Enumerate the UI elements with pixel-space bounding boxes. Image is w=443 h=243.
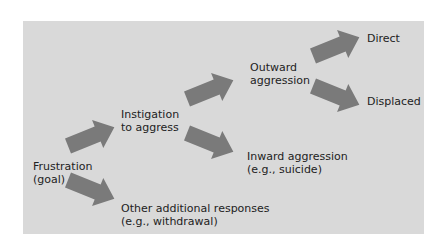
node-outward-aggression: Outward aggression <box>250 61 310 87</box>
arrow-frustration-to-instigation <box>62 113 120 160</box>
arrow-instigation-to-outward <box>181 66 239 113</box>
node-displaced: Displaced <box>367 95 421 108</box>
arrow-outward-to-direct <box>307 23 365 70</box>
node-frustration: Frustration (goal) <box>33 160 92 186</box>
node-other-responses: Other additional responses (e.g., withdr… <box>121 202 270 228</box>
node-inward-aggression: Inward aggression (e.g., suicide) <box>247 150 348 176</box>
node-instigation: Instigation to aggress <box>121 108 179 134</box>
arrow-instigation-to-inward <box>181 119 239 166</box>
arrow-outward-to-displaced <box>307 72 365 119</box>
node-direct: Direct <box>367 32 400 45</box>
